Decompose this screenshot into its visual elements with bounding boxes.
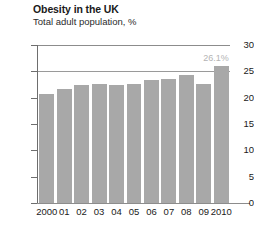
y-tick-mark bbox=[31, 150, 37, 151]
chart-header: Obesity in the UK Total adult population… bbox=[33, 3, 248, 28]
bar bbox=[196, 84, 211, 203]
y-tick-mark bbox=[31, 177, 37, 178]
bar-series bbox=[38, 45, 230, 203]
chart-subtitle: Total adult population, % bbox=[33, 16, 248, 28]
bar bbox=[39, 94, 54, 203]
bar bbox=[214, 66, 229, 203]
data-label-2010: 26.1% bbox=[203, 53, 229, 63]
bar bbox=[57, 89, 72, 203]
y-tick-mark bbox=[31, 98, 37, 99]
y-tick-mark bbox=[31, 71, 37, 72]
bar bbox=[92, 84, 107, 203]
bar bbox=[127, 84, 142, 203]
bar bbox=[179, 75, 194, 203]
x-tick-label: 2010 bbox=[205, 206, 237, 217]
chart-container: Obesity in the UK Total adult population… bbox=[0, 0, 254, 234]
y-tick-mark bbox=[31, 124, 37, 125]
y-tick-mark bbox=[31, 203, 37, 204]
x-axis-line bbox=[37, 203, 250, 204]
page-title: Obesity in the UK bbox=[33, 3, 248, 16]
bar bbox=[144, 80, 159, 203]
bar bbox=[161, 79, 176, 203]
y-tick-mark bbox=[31, 45, 37, 46]
bar bbox=[109, 85, 124, 204]
bar bbox=[74, 85, 89, 204]
x-axis: 20000102030405060708092010 bbox=[38, 206, 233, 220]
